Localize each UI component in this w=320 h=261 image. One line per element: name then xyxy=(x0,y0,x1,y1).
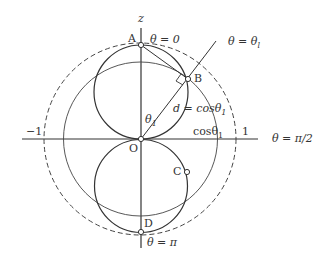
label-C: C xyxy=(173,166,181,177)
label-theta-pi: θ = π xyxy=(147,237,177,248)
label-theta-l: θ = θl xyxy=(228,36,260,50)
point-A xyxy=(138,42,143,47)
tick-neg-one: −1 xyxy=(26,126,42,137)
point-C xyxy=(184,169,189,174)
right-angle-marker xyxy=(176,74,183,85)
label-cos-theta1: cosθ1 xyxy=(193,126,223,140)
label-D: D xyxy=(144,218,153,229)
point-O xyxy=(138,136,143,141)
z-axis-label: z xyxy=(138,13,144,24)
point-B xyxy=(185,76,190,81)
label-distance: d = cosθ1 xyxy=(173,103,226,117)
label-O: O xyxy=(129,143,138,154)
point-D xyxy=(138,229,143,234)
tick-pos-one: 1 xyxy=(242,126,249,137)
label-A: A xyxy=(128,33,136,44)
label-theta1: θ1 xyxy=(145,114,157,128)
label-theta-pi-half: θ = π/2 xyxy=(272,133,313,144)
theta-l-leader xyxy=(210,41,216,49)
label-B: B xyxy=(194,73,202,84)
label-theta-zero: θ = 0 xyxy=(150,34,180,45)
